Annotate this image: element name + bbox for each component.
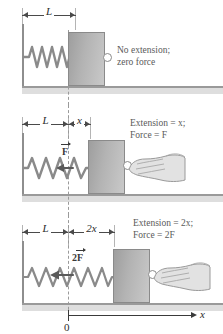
dim-label-2x: 2x (84, 222, 98, 234)
block (68, 32, 105, 86)
dim-arrowhead-left (23, 121, 28, 127)
caption-line-1: Extension = 2x; (133, 218, 193, 230)
dim-arrowhead-left (23, 12, 28, 18)
dimension-2x: 2x (68, 226, 115, 238)
dim-arrowhead-left (69, 229, 74, 235)
attachment-ring-icon (103, 53, 112, 62)
caption-line-2: Force = F (130, 130, 186, 142)
panel-relaxed: L No extension; zero force (0, 0, 223, 105)
axis-label-x: x (200, 308, 205, 320)
hookes-law-figure: L No extension; zero force (0, 0, 223, 334)
ground-shading (22, 305, 223, 311)
force-label-F: F (62, 147, 68, 157)
hand-icon (151, 260, 211, 294)
axis-line (68, 315, 193, 316)
dimension-x: x (68, 118, 91, 130)
caption-line-1: No extension; (117, 45, 170, 57)
dimension-L: L (22, 118, 69, 130)
force-arrow (50, 269, 74, 281)
axis-arrowhead (191, 312, 197, 318)
panel-extension-2x: L 2x 2F (0, 215, 223, 334)
dim-label-L: L (40, 114, 50, 126)
axis-origin-label: 0 (64, 321, 70, 333)
dim-arrowhead-right (85, 121, 90, 127)
dim-arrowhead-right (109, 229, 114, 235)
panel-extension-x: L x F (0, 105, 223, 215)
dimension-L: L (22, 9, 76, 21)
dim-arrowhead-left (69, 121, 74, 127)
caption-extension-2x: Extension = 2x; Force = 2F (133, 218, 193, 241)
hand-icon (126, 151, 186, 185)
force-symbol: F (77, 253, 83, 263)
dim-arrowhead-left (23, 229, 28, 235)
dim-label-L: L (40, 222, 50, 234)
ground-shading (22, 196, 223, 202)
force-symbol: F (62, 147, 68, 157)
caption-extension-x: Extension = x; Force = F (130, 118, 186, 141)
force-label-2F: 2F (72, 253, 83, 263)
caption-line-1: Extension = x; (130, 118, 186, 130)
caption-line-2: Force = 2F (133, 230, 193, 242)
dimension-L: L (22, 226, 69, 238)
block (88, 140, 125, 194)
caption-line-2: zero force (117, 57, 170, 69)
ground-shading (22, 88, 223, 94)
dim-label-L: L (44, 5, 54, 17)
force-arrow (56, 162, 74, 174)
caption-relaxed: No extension; zero force (117, 45, 170, 68)
block (113, 249, 150, 303)
dim-label-x: x (75, 114, 84, 126)
dim-arrowhead-right (70, 12, 75, 18)
